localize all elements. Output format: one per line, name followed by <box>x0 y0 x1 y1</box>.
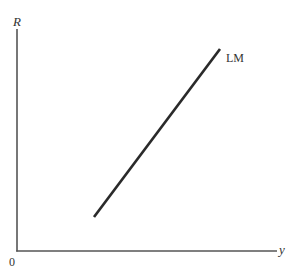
x-axis-label: y <box>277 242 285 257</box>
lm-diagram: R y 0 LM <box>0 0 299 273</box>
lm-curve-label: LM <box>226 51 244 65</box>
lm-curve <box>94 49 220 217</box>
y-axis-label: R <box>12 14 21 29</box>
origin-label: 0 <box>9 255 15 269</box>
